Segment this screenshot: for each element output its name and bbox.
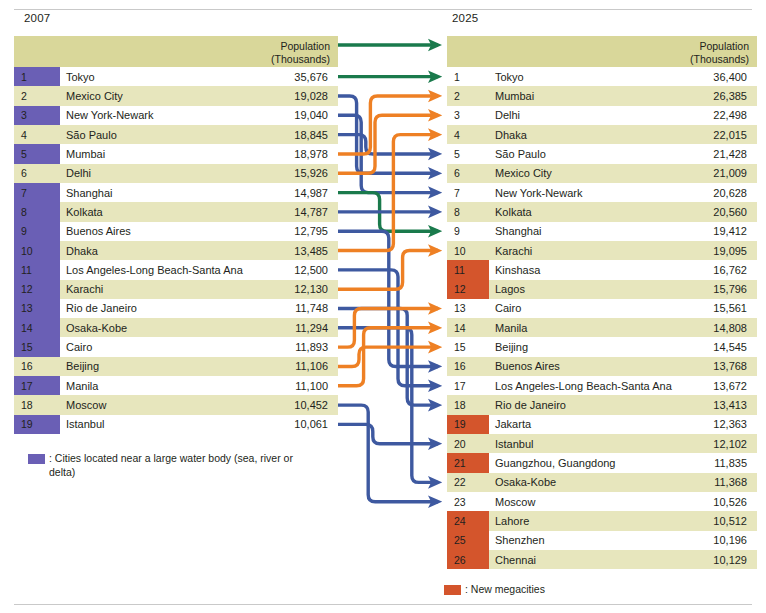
row-city-name: Guangzhou, Guangdong bbox=[495, 453, 616, 472]
row-rank: 25 bbox=[447, 531, 489, 550]
table-row: 4São Paulo18,845 bbox=[14, 125, 338, 144]
row-population: 14,808 bbox=[677, 318, 747, 337]
row-population: 19,040 bbox=[258, 106, 328, 125]
row-population: 14,987 bbox=[258, 183, 328, 202]
row-rank: 2 bbox=[447, 86, 489, 105]
row-population: 11,748 bbox=[258, 299, 328, 318]
row-population: 18,845 bbox=[258, 125, 328, 144]
row-population: 36,400 bbox=[677, 67, 747, 86]
row-population: 10,452 bbox=[258, 395, 328, 414]
flow-link bbox=[338, 96, 438, 154]
row-city-name: Rio de Janeiro bbox=[495, 395, 566, 414]
row-rank: 5 bbox=[447, 144, 489, 163]
row-city-name: Dhaka bbox=[495, 125, 527, 144]
legend-water-body: : Cities located near a large water body… bbox=[28, 451, 328, 479]
row-rank: 10 bbox=[14, 241, 60, 260]
flow-link bbox=[338, 115, 438, 173]
row-rank: 18 bbox=[14, 395, 60, 414]
row-rank: 12 bbox=[447, 280, 489, 299]
row-rank: 13 bbox=[14, 299, 60, 318]
row-city-name: Tokyo bbox=[495, 67, 524, 86]
row-city-name: Jakarta bbox=[495, 415, 531, 434]
row-population: 14,545 bbox=[677, 337, 747, 356]
row-rank: 11 bbox=[14, 260, 60, 279]
row-city-name: Beijing bbox=[66, 357, 99, 376]
table-row: 12Lagos15,796 bbox=[447, 280, 757, 299]
flow-link bbox=[338, 405, 438, 502]
flow-link bbox=[338, 251, 438, 290]
table-row: 4Dhaka22,015 bbox=[447, 125, 757, 144]
row-city-name: Osaka-Kobe bbox=[495, 473, 556, 492]
table-row: 18Moscow10,452 bbox=[14, 395, 338, 414]
table-row: 9Shanghai19,412 bbox=[447, 222, 757, 241]
table-row: 22Osaka-Kobe11,368 bbox=[447, 473, 757, 492]
row-city-name: Moscow bbox=[66, 395, 106, 414]
population-header-right: Population (Thousands) bbox=[690, 40, 749, 65]
table-2007-header: Population (Thousands) bbox=[14, 36, 338, 67]
row-rank: 14 bbox=[447, 318, 489, 337]
table-row: 19Istanbul10,061 bbox=[14, 415, 338, 434]
row-city-name: Shanghai bbox=[66, 183, 113, 202]
table-row: 13Rio de Janeiro11,748 bbox=[14, 299, 338, 318]
row-city-name: Istanbul bbox=[495, 434, 534, 453]
row-rank: 3 bbox=[14, 106, 60, 125]
row-city-name: Delhi bbox=[66, 164, 91, 183]
row-rank: 15 bbox=[447, 337, 489, 356]
row-rank: 19 bbox=[14, 415, 60, 434]
row-city-name: Kolkata bbox=[495, 202, 532, 221]
table-row: 7Shanghai14,987 bbox=[14, 183, 338, 202]
row-population: 13,768 bbox=[677, 357, 747, 376]
table-row: 17Los Angeles-Long Beach-Santa Ana13,672 bbox=[447, 376, 757, 395]
row-city-name: Tokyo bbox=[66, 67, 95, 86]
row-city-name: Delhi bbox=[495, 106, 520, 125]
table-row: 9Buenos Aires12,795 bbox=[14, 222, 338, 241]
infographic-canvas: 2007 2025 Population (Thousands) 1Tokyo3… bbox=[0, 0, 766, 613]
row-population: 19,412 bbox=[677, 222, 747, 241]
row-rank: 21 bbox=[447, 453, 489, 472]
row-rank: 9 bbox=[14, 222, 60, 241]
row-rank: 17 bbox=[14, 376, 60, 395]
legend-swatch-water-icon bbox=[28, 454, 45, 464]
row-population: 19,028 bbox=[258, 86, 328, 105]
table-row: 2Mumbai26,385 bbox=[447, 86, 757, 105]
row-rank: 7 bbox=[14, 183, 60, 202]
row-population: 12,363 bbox=[677, 415, 747, 434]
row-rank: 5 bbox=[14, 144, 60, 163]
table-row: 8Kolkata20,560 bbox=[447, 202, 757, 221]
row-population: 10,512 bbox=[677, 511, 747, 530]
row-population: 10,526 bbox=[677, 492, 747, 511]
flow-link bbox=[338, 231, 438, 366]
row-population: 21,428 bbox=[677, 144, 747, 163]
row-population: 35,676 bbox=[258, 67, 328, 86]
row-population: 21,009 bbox=[677, 164, 747, 183]
row-city-name: São Paulo bbox=[495, 144, 546, 163]
row-population: 18,978 bbox=[258, 144, 328, 163]
row-population: 11,100 bbox=[258, 376, 328, 395]
row-city-name: Mumbai bbox=[495, 86, 534, 105]
bottom-divider-rule bbox=[14, 604, 752, 605]
row-rank: 13 bbox=[447, 299, 489, 318]
table-row: 13Cairo15,561 bbox=[447, 299, 757, 318]
row-population: 10,129 bbox=[677, 550, 747, 569]
row-city-name: Buenos Aires bbox=[495, 357, 560, 376]
row-city-name: Lagos bbox=[495, 280, 525, 299]
table-row: 20Istanbul12,102 bbox=[447, 434, 757, 453]
row-city-name: New York-Newark bbox=[66, 106, 153, 125]
row-city-name: Manila bbox=[495, 318, 527, 337]
row-rank: 6 bbox=[447, 164, 489, 183]
table-row: 8Kolkata14,787 bbox=[14, 202, 338, 221]
row-population: 26,385 bbox=[677, 86, 747, 105]
table-row: 3Delhi22,498 bbox=[447, 106, 757, 125]
legend-swatch-new-icon bbox=[444, 585, 461, 595]
table-row: 24Lahore10,512 bbox=[447, 511, 757, 530]
row-population: 10,061 bbox=[258, 415, 328, 434]
flow-link bbox=[338, 135, 438, 154]
table-row: 17Manila11,100 bbox=[14, 376, 338, 395]
row-rank: 26 bbox=[447, 550, 489, 569]
table-row: 14Osaka-Kobe11,294 bbox=[14, 318, 338, 337]
row-rank: 15 bbox=[14, 337, 60, 356]
table-row: 18Rio de Janeiro13,413 bbox=[447, 395, 757, 414]
row-rank: 1 bbox=[447, 67, 489, 86]
row-rank: 10 bbox=[447, 241, 489, 260]
table-row: 7New York-Newark20,628 bbox=[447, 183, 757, 202]
